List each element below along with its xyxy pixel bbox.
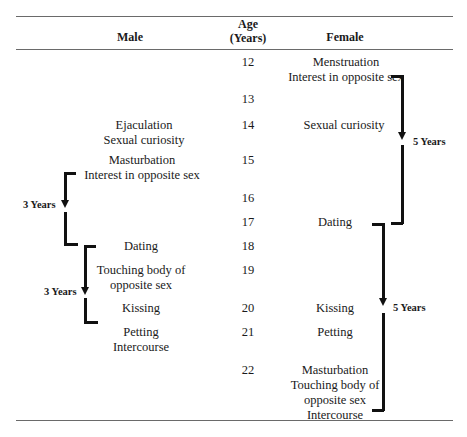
event-line: Touching body of xyxy=(260,378,410,393)
female-bracket-2-label: 5 Years xyxy=(393,302,426,313)
age-18: 18 xyxy=(228,239,268,254)
event-line: opposite sex xyxy=(260,393,410,408)
male-event-21: Petting Intercourse xyxy=(56,325,226,355)
event-line: Touching body of xyxy=(56,263,226,278)
event-line: Dating xyxy=(56,239,226,254)
female-event-14: Sexual curiosity xyxy=(269,118,419,133)
arrow-down-icon xyxy=(398,132,406,140)
event-line: Intercourse xyxy=(260,408,410,423)
male-event-18: Dating xyxy=(56,239,226,254)
female-event-20: Kissing xyxy=(260,301,410,316)
event-line: Intercourse xyxy=(56,340,226,355)
male-event-20: Kissing xyxy=(56,301,226,316)
female-event-17: Dating xyxy=(260,215,410,230)
event-line: Petting xyxy=(56,325,226,340)
event-line: Interest in opposite sex xyxy=(57,168,227,183)
female-bracket-1-label: 5 Years xyxy=(413,136,446,147)
age-14: 14 xyxy=(228,118,268,133)
column-header-age-line2: (Years) xyxy=(218,31,278,46)
column-header-age-line1: Age xyxy=(228,17,268,32)
event-line: Sexual curiosity xyxy=(59,133,229,148)
age-15: 15 xyxy=(228,153,268,168)
age-19: 19 xyxy=(228,263,268,278)
male-event-14: Ejaculation Sexual curiosity xyxy=(59,118,229,148)
column-header-male: Male xyxy=(45,30,215,45)
age-13: 13 xyxy=(228,92,268,107)
arrow-down-icon xyxy=(61,200,69,208)
event-line: Dating xyxy=(260,215,410,230)
male-event-15: Masturbation Interest in opposite sex xyxy=(57,153,227,183)
event-line: Kissing xyxy=(260,301,410,316)
event-line: Kissing xyxy=(56,301,226,316)
arrow-down-icon xyxy=(81,287,89,295)
female-event-12: Menstruation Interest in opposite sex xyxy=(271,55,421,85)
event-line: Petting xyxy=(260,325,410,340)
header-rule xyxy=(16,49,453,50)
male-bracket-1-label: 3 Years xyxy=(23,199,56,210)
event-line: Interest in opposite sex xyxy=(271,70,421,85)
event-line: Masturbation xyxy=(57,153,227,168)
event-line: Ejaculation xyxy=(59,118,229,133)
female-event-21: Petting xyxy=(260,325,410,340)
arrow-down-icon xyxy=(379,298,387,306)
event-line: Sexual curiosity xyxy=(269,118,419,133)
age-16: 16 xyxy=(228,191,268,206)
male-bracket-2-label: 3 Years xyxy=(44,286,77,297)
female-event-22: Masturbation Touching body of opposite s… xyxy=(260,363,410,423)
age-12: 12 xyxy=(228,55,268,70)
column-header-female: Female xyxy=(270,30,420,45)
event-line: Menstruation xyxy=(271,55,421,70)
event-line: Masturbation xyxy=(260,363,410,378)
